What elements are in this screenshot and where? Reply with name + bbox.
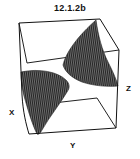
box-edge-top-back [19, 19, 100, 23]
box-edge-right-vertical [116, 50, 119, 128]
surface-plot [0, 0, 140, 159]
box-edge-back-vertical-right [97, 98, 116, 128]
axis-label-x: X [9, 108, 14, 117]
axis-label-y: Y [70, 141, 75, 150]
surface-sheet-upper [63, 20, 118, 86]
box-edge-top-right [100, 19, 119, 50]
axis-label-z: Z [126, 84, 131, 93]
